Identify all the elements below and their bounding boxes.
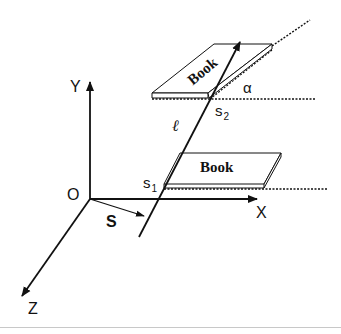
flat-book-label: Book (200, 160, 233, 175)
point-s1-label: s1 (143, 175, 157, 190)
z-axis-label: Z (28, 301, 38, 317)
x-axis-label: X (256, 205, 267, 221)
tilted-reference-diagonal (272, 20, 310, 46)
book-tilted (152, 20, 316, 99)
y-axis-label: Y (70, 79, 81, 95)
origin-label: O (67, 187, 79, 203)
angle-alpha-label: α (243, 80, 252, 95)
line-l-label: ℓ (172, 118, 179, 134)
book-flat (164, 153, 328, 189)
z-axis (22, 199, 90, 296)
tilted-book-front-edge (152, 93, 208, 98)
s-vector (90, 199, 144, 216)
s-vector-label: S (106, 214, 117, 230)
book-line-diagram (0, 0, 341, 334)
point-s2-label: s2 (215, 103, 229, 118)
bottom-divider (0, 327, 341, 328)
